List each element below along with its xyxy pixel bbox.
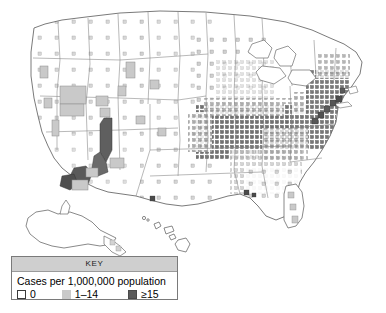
legend-title: KEY	[85, 260, 103, 268]
legend-body: Cases per 1,000,000 population 0 1–14 ≥1…	[12, 272, 177, 300]
legend-items: 0 1–14 ≥15	[17, 289, 172, 300]
legend-label-high: ≥15	[141, 289, 158, 300]
legend-item-zero: 0	[17, 289, 36, 300]
hawaii-inset	[142, 216, 190, 252]
map-layers	[0, 0, 386, 262]
map-figure: KEY Cases per 1,000,000 population 0 1–1…	[0, 0, 386, 313]
legend-swatch-low	[62, 290, 71, 299]
us-county-map	[0, 0, 386, 262]
map-svg	[0, 0, 386, 262]
legend-caption: Cases per 1,000,000 population	[17, 275, 172, 287]
legend-swatch-zero	[17, 290, 26, 299]
legend-header: KEY	[12, 257, 177, 272]
alaska-inset	[26, 200, 126, 256]
legend-label-zero: 0	[30, 289, 36, 300]
legend-item-high: ≥15	[128, 289, 158, 300]
legend-label-low: 1–14	[75, 289, 98, 300]
map-legend: KEY Cases per 1,000,000 population 0 1–1…	[11, 256, 178, 300]
legend-item-low: 1–14	[62, 289, 98, 300]
legend-swatch-high	[128, 290, 137, 299]
